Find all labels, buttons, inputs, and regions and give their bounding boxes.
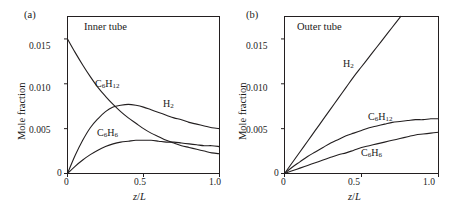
curve-h2	[285, 16, 401, 173]
panel-b-curves	[285, 16, 439, 173]
curve-h2	[68, 104, 220, 173]
panel-b-outer-tube: (b) Outer tube Mole fraction 0 0.005 0.0…	[233, 0, 467, 214]
panel-a-inner-tube: (a) Inner tube Mole fraction 0 0.005 0.0…	[0, 0, 234, 214]
curve-c6h6	[68, 140, 220, 173]
curve-c6h12	[68, 39, 220, 154]
panel-a-curves	[68, 39, 220, 174]
panel-b-plot	[233, 0, 467, 214]
curve-c6h6	[285, 132, 439, 173]
panel-b-tickmarks	[281, 39, 439, 177]
panel-b-axes-frame	[285, 17, 439, 174]
figure-container: (a) Inner tube Mole fraction 0 0.005 0.0…	[0, 0, 467, 214]
panel-a-axes-frame	[68, 17, 220, 174]
panel-a-plot	[0, 0, 234, 214]
